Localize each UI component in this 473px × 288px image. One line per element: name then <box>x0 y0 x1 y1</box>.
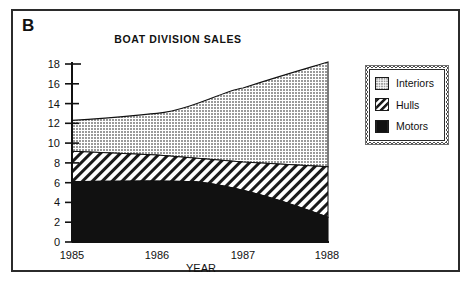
y-axis-tick-labels: 18 16 14 12 10 8 6 4 2 0 <box>48 58 60 248</box>
y-tick-label: 10 <box>48 137 60 149</box>
gray-stipple-swatch-icon <box>375 77 389 90</box>
legend-item-interiors[interactable]: Interiors <box>375 74 444 94</box>
legend-item-label: Hulls <box>396 100 419 111</box>
y-tick-label: 0 <box>54 236 60 248</box>
y-tick-label: 8 <box>54 157 60 169</box>
y-tick-label: 6 <box>54 177 60 189</box>
x-tick-label: 1987 <box>231 249 255 261</box>
x-axis-tick-labels: 1985 1986 1987 1988 <box>60 249 339 261</box>
x-axis-title: YEAR <box>186 262 216 274</box>
x-tick-label: 1986 <box>145 249 169 261</box>
y-tick-label: 2 <box>54 216 60 228</box>
y-tick-label: 16 <box>48 78 60 90</box>
y-tick-label: 12 <box>48 117 60 129</box>
series-area-interiors <box>72 62 328 167</box>
solid-black-swatch-icon <box>375 120 389 133</box>
legend-item-label: Motors <box>396 121 428 132</box>
legend-item-motors[interactable]: Motors <box>375 116 444 136</box>
y-tick-label: 4 <box>54 196 60 208</box>
x-tick-label: 1988 <box>315 249 339 261</box>
legend-item-hulls[interactable]: Hulls <box>375 95 444 115</box>
y-tick-label: 14 <box>48 98 60 110</box>
legend-item-label: Interiors <box>396 78 434 89</box>
diagonal-hatch-swatch-icon <box>375 98 389 111</box>
figure-frame: B BOAT DIVISION SALES <box>11 9 460 272</box>
x-tick-label: 1985 <box>60 249 84 261</box>
y-tick-label: 18 <box>48 58 60 70</box>
chart-legend: Interiors Hulls Motors <box>365 65 449 145</box>
